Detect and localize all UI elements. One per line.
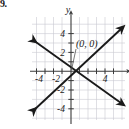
y-tick-label-neg4: -4 (57, 104, 65, 114)
y-tick-label-2: 2 (60, 48, 65, 58)
x-tick-label-neg4: -4 (35, 74, 43, 84)
coordinate-plane-graph: -4 -2 4 4 2 -2 -4 y (0, 0) (0, 0, 129, 129)
x-tick-label-neg2: -2 (52, 74, 60, 84)
origin-annotation-label: (0, 0) (76, 38, 98, 50)
x-tick-label-4: 4 (103, 74, 108, 84)
y-tick-label-neg2: -2 (57, 85, 65, 95)
figure-panel: 9. (0, 0, 129, 129)
y-tick-label-4: 4 (60, 29, 65, 39)
y-axis-label: y (65, 4, 71, 15)
